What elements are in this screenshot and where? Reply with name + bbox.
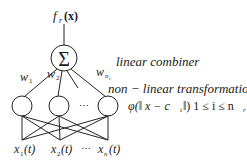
svg-text:x: x — [50, 142, 57, 156]
svg-text:(x): (x) — [64, 9, 78, 23]
input-x1: x 1 (t) — [13, 142, 35, 158]
linear-combiner-label: linear combiner — [116, 54, 200, 69]
svg-text:1: 1 — [29, 77, 33, 85]
nonlinear-transformation-label: non − linear transformation — [108, 81, 247, 96]
rbf-network-diagram: f r (x) Σ w 1 w 2 w n r linear combiner … — [0, 0, 247, 164]
output-label: f r (x) — [53, 8, 78, 25]
svg-text:(t): (t) — [109, 142, 120, 156]
svg-text:φ(‖ x − c: φ(‖ x − c — [128, 99, 170, 113]
svg-text:r: r — [59, 16, 63, 25]
hidden-node-2 — [49, 96, 69, 116]
hidden-node-n — [98, 96, 118, 116]
svg-text:w: w — [47, 67, 55, 81]
svg-text:n: n — [104, 150, 108, 158]
weight-connectors — [25, 69, 106, 97]
hidden-ellipsis: ⋯ — [79, 100, 89, 111]
svg-text:x: x — [97, 142, 104, 156]
svg-text:i: i — [180, 106, 182, 114]
weight-wnr: w n r — [96, 65, 111, 81]
svg-text:2: 2 — [56, 74, 60, 82]
svg-text:(t): (t) — [24, 142, 35, 156]
sigma-icon: Σ — [58, 48, 70, 70]
svg-text:‖) 1 ≤ i ≤ n: ‖) 1 ≤ i ≤ n — [183, 99, 234, 113]
input-xn: x n (t) — [97, 142, 120, 158]
weight-w1: w 1 — [20, 70, 33, 85]
input-ellipsis: ⋯ — [81, 143, 91, 154]
svg-text:w: w — [20, 70, 28, 84]
svg-text:r: r — [243, 106, 246, 114]
hidden-node-1 — [12, 96, 32, 116]
input-x2: x 2 (t) — [50, 142, 72, 158]
svg-text:w: w — [96, 65, 104, 79]
basis-function-formula: φ(‖ x − c i ‖) 1 ≤ i ≤ n r — [128, 99, 246, 114]
input-connectors — [22, 116, 108, 140]
svg-text:(t): (t) — [61, 142, 72, 156]
svg-text:x: x — [13, 142, 20, 156]
